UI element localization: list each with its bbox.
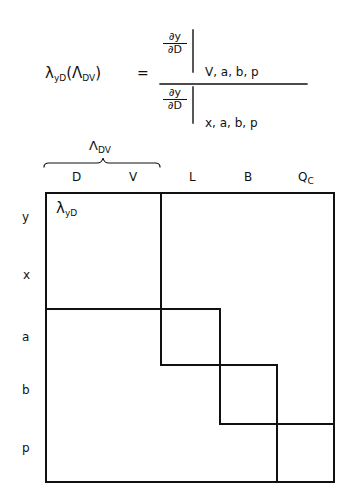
- matrix-diagram: [0, 0, 344, 503]
- outer-frame: [46, 193, 334, 482]
- brace-icon: [44, 158, 160, 167]
